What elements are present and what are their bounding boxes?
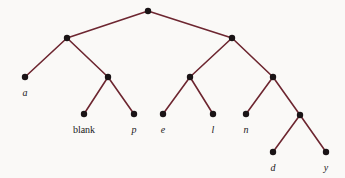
tree-internal-node — [270, 74, 276, 80]
tree-internal-node — [229, 35, 235, 41]
tree-leaf-node — [210, 111, 216, 117]
tree-canvas — [0, 0, 345, 178]
tree-edge — [25, 38, 67, 77]
tree-node-label: e — [161, 125, 165, 135]
tree-edge — [190, 77, 213, 114]
tree-node-layer — [22, 8, 329, 155]
tree-edge — [148, 11, 232, 38]
tree-edge — [273, 115, 300, 152]
tree-edge — [273, 77, 300, 115]
tree-internal-node — [297, 112, 303, 118]
tree-edge — [163, 77, 190, 114]
tree-internal-node — [105, 74, 111, 80]
tree-edge — [246, 77, 273, 114]
tree-node-label: l — [212, 125, 215, 135]
tree-edge — [67, 38, 108, 77]
tree-node-label: y — [324, 163, 328, 173]
tree-leaf-node — [131, 111, 137, 117]
tree-edge — [300, 115, 326, 152]
binary-tree-figure: ablankpelndy — [0, 0, 345, 178]
tree-internal-node — [145, 8, 151, 14]
tree-leaf-node — [81, 111, 87, 117]
tree-leaf-node — [160, 111, 166, 117]
tree-node-label: a — [23, 88, 28, 98]
tree-edge — [108, 77, 134, 114]
tree-edge — [190, 38, 232, 77]
tree-edge — [67, 11, 148, 38]
tree-internal-node — [187, 74, 193, 80]
tree-edge — [232, 38, 273, 77]
tree-node-label: d — [271, 163, 276, 173]
tree-internal-node — [64, 35, 70, 41]
tree-leaf-node — [22, 74, 28, 80]
tree-edge-layer — [25, 11, 326, 152]
tree-node-label: n — [244, 125, 249, 135]
tree-node-label: blank — [73, 125, 95, 135]
tree-leaf-node — [323, 149, 329, 155]
tree-edge — [84, 77, 108, 114]
tree-leaf-node — [243, 111, 249, 117]
tree-node-label: p — [132, 125, 137, 135]
tree-leaf-node — [270, 149, 276, 155]
